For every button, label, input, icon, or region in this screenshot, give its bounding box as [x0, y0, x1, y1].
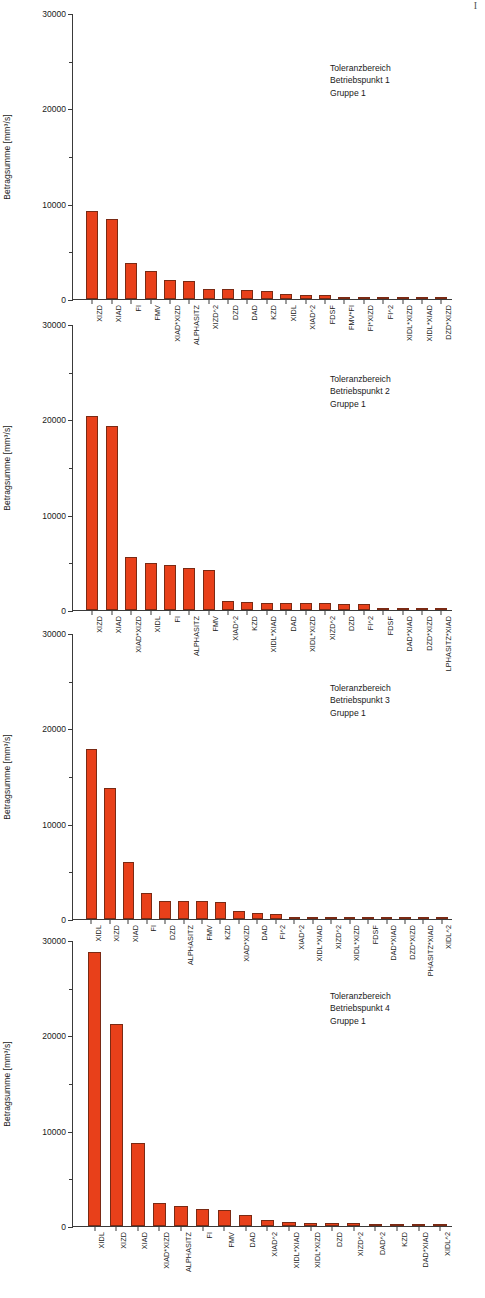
x-axis-tick-label: XIDL^2 [443, 1232, 452, 1256]
x-axis-tick [305, 300, 306, 304]
y-axis-tick [68, 1132, 73, 1133]
bar [252, 913, 263, 919]
x-axis-tick [294, 920, 295, 924]
bar [377, 297, 389, 299]
y-axis-title: Betragsumme [mm³/s] [0, 634, 14, 920]
x-axis-tick [224, 1227, 225, 1231]
bar [131, 1143, 144, 1226]
chart-annotation: ToleranzbereichBetriebspunkt 3Gruppe 1 [330, 682, 391, 719]
y-axis-minor-tick [69, 872, 73, 873]
x-axis-tick [169, 611, 170, 615]
x-axis-line [72, 299, 452, 300]
x-axis-tick [396, 1227, 397, 1231]
x-axis-tick [128, 920, 129, 924]
x-axis-tick [266, 300, 267, 304]
y-axis-tick [68, 634, 73, 635]
y-axis-tick-label: 30000 [42, 629, 66, 639]
x-axis-tick [423, 920, 424, 924]
x-axis-tick-label: FI^2 [386, 305, 395, 319]
x-axis-tick [116, 1227, 117, 1231]
x-axis-tick [441, 300, 442, 304]
plot-area [72, 634, 452, 920]
bar [88, 952, 101, 1226]
bar [145, 563, 157, 610]
y-axis-tick-label: 20000 [42, 104, 66, 114]
chart-page: I Betragsumme [mm³/s]0100002000030000XIZ… [0, 0, 485, 1298]
x-axis-tick-label: XIDL*XIAD [292, 1232, 301, 1268]
x-axis-tick-label: FI [134, 305, 143, 312]
x-axis-tick-label: XIAD [114, 616, 123, 633]
x-axis-tick-label: KZD [269, 305, 278, 320]
x-axis-tick [286, 611, 287, 615]
bar [397, 297, 409, 299]
y-axis-tick [68, 109, 73, 110]
x-axis-tick-label: XIDL*XIZD [313, 1232, 322, 1268]
y-axis-tick-label: 30000 [42, 320, 66, 330]
bar [435, 608, 447, 610]
x-axis-tick [421, 611, 422, 615]
y-axis-tick [68, 205, 73, 206]
x-axis-tick [332, 1227, 333, 1231]
bar [125, 263, 137, 299]
x-axis-tick [183, 920, 184, 924]
x-axis-tick-label: XIDL [97, 1232, 106, 1248]
bar [390, 1224, 403, 1226]
x-axis-tick [349, 920, 350, 924]
bar [433, 1224, 446, 1226]
x-axis-tick [266, 611, 267, 615]
x-axis-tick [181, 1227, 182, 1231]
x-axis-tick [440, 1227, 441, 1231]
bar [338, 604, 350, 610]
x-axis-tick [325, 611, 326, 615]
bar [282, 1222, 295, 1226]
bar [218, 1210, 231, 1226]
bar [300, 295, 312, 299]
y-axis-minor-tick [69, 1084, 73, 1085]
bar [261, 1220, 274, 1226]
bar [123, 862, 134, 919]
x-axis-tick [202, 920, 203, 924]
x-axis-tick [421, 300, 422, 304]
bar [145, 271, 157, 299]
bar [164, 565, 176, 610]
x-axis-tick-label: XIAD [131, 925, 140, 942]
x-axis-tick [257, 920, 258, 924]
y-axis-title: Betragsumme [mm³/s] [0, 325, 14, 611]
y-axis-tick-labels: 0100002000030000 [16, 941, 66, 1227]
x-axis-tick [208, 300, 209, 304]
bar [86, 416, 98, 610]
x-axis-tick [111, 611, 112, 615]
y-axis-tick-label: 0 [61, 606, 66, 616]
bar [153, 1203, 166, 1226]
x-axis-tick-label: FDSF [386, 616, 395, 635]
y-axis-tick [68, 300, 73, 301]
x-axis-tick-label: XIDL [153, 616, 162, 632]
y-axis-minor-tick [69, 252, 73, 253]
x-axis-tick-label: XIAD*XIZD [162, 1232, 171, 1269]
bar [289, 917, 300, 919]
x-axis-tick [331, 920, 332, 924]
x-axis-tick [404, 920, 405, 924]
bar [399, 917, 410, 919]
y-axis-tick [68, 325, 73, 326]
x-axis-tick [353, 1227, 354, 1231]
bar [362, 917, 373, 919]
chart-annotation-line: Gruppe 1 [330, 707, 391, 719]
x-axis-tick [220, 920, 221, 924]
bar [174, 1206, 187, 1226]
x-axis-tick-label: XIAD [114, 305, 123, 322]
bar [416, 297, 428, 299]
x-axis-tick [131, 300, 132, 304]
x-axis-tick [375, 1227, 376, 1231]
bar [241, 602, 253, 610]
chart-annotation-line: Betriebspunkt 1 [330, 74, 391, 86]
y-axis-minor-tick [69, 62, 73, 63]
x-axis-tick [159, 1227, 160, 1231]
y-axis-tick-label: 10000 [42, 200, 66, 210]
x-axis-tick [368, 920, 369, 924]
chart-annotation-line: Gruppe 1 [330, 87, 391, 99]
x-axis-line [72, 610, 452, 611]
chart-annotation: ToleranzbereichBetriebspunkt 4Gruppe 1 [330, 990, 391, 1027]
y-axis-tick-labels: 0100002000030000 [16, 634, 66, 920]
bar [319, 295, 331, 299]
